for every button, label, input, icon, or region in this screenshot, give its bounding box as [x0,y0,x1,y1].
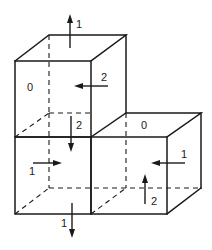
label-right-right: 1 [181,148,187,160]
down-arrow-middle [68,116,74,152]
up-arrow-top [67,14,73,48]
label-right-top-face: 0 [141,119,147,131]
up-arrow-bottom-right [142,174,148,204]
label-top-face: 0 [27,81,33,93]
label-bottom-left: 1 [29,165,35,177]
label-right-up: 2 [151,195,157,207]
cube-arrangement-diagram: 1 0 2 2 1 1 0 1 2 [0,0,212,250]
label-top-up: 1 [76,18,82,30]
label-bottom-down: 1 [61,217,67,229]
label-top-right: 2 [101,71,107,83]
right-arrow-bottom-left [33,160,62,166]
label-middle-down: 2 [76,119,82,131]
left-arrow-bottom-right [151,160,185,166]
down-arrow-bottom [69,203,75,238]
